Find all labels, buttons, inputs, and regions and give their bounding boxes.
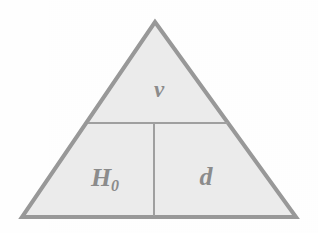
triangle-cell-label-bottom-left: H0: [55, 165, 155, 191]
triangle-cell-label-bottom-right: d: [160, 164, 252, 190]
formula-triangle-figure: v H0 d: [0, 0, 318, 233]
label-text-v: v: [154, 77, 164, 102]
label-text-d: d: [200, 162, 213, 191]
triangle-diagram: [0, 0, 318, 233]
label-text-h: H: [91, 163, 111, 192]
triangle-cell-label-top: v: [0, 78, 318, 101]
label-subscript-h: 0: [111, 177, 119, 194]
